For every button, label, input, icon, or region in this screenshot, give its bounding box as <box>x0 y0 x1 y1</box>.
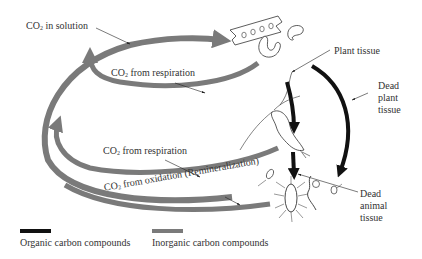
legend-label-organic: Organic carbon compounds <box>20 237 130 248</box>
pointer-co2-oxidation <box>225 197 240 205</box>
label-co2-respiration-upper: CO2 from respiration <box>111 67 195 81</box>
pointer-dead-animal-tissue <box>298 174 358 192</box>
label-dead-animal-tissue: Dead animal tissue <box>360 188 387 224</box>
animal-to-bacteria-arrow <box>293 152 294 174</box>
dead-plant-tissue-arrow <box>312 66 348 172</box>
pointer-dead-plant-tissue <box>352 93 368 100</box>
legend-swatch-inorganic <box>152 229 183 233</box>
label-plant-tissue: Plant tissue <box>334 45 380 56</box>
label-co2-in-solution: CO2 in solution <box>26 20 88 34</box>
carbon-cycle-diagram <box>0 0 422 259</box>
bacterium-icon <box>274 176 308 222</box>
label-dead-plant-tissue: Dead plant tissue <box>378 80 401 116</box>
legend-label-inorganic: Inorganic carbon compounds <box>152 237 268 248</box>
label-co2-respiration-lower: CO2 from respiration <box>103 145 187 159</box>
phytoplankton-chain-icon <box>230 16 282 45</box>
legend-swatch-organic <box>20 229 51 233</box>
pointer-plant-tissue <box>292 50 330 72</box>
pointer-co2-in-solution <box>96 28 130 44</box>
